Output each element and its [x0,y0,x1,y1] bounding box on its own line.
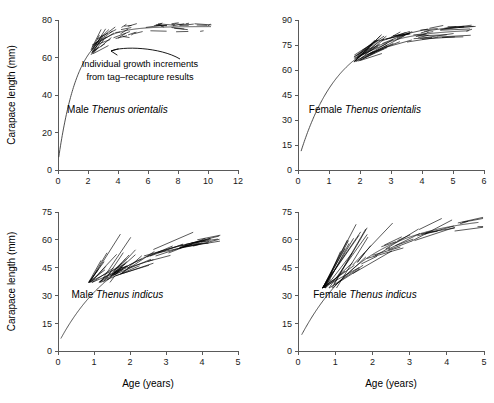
x-tick-label: 0 [295,176,300,186]
x-tick-label: 10 [203,176,213,186]
y-tick-label: 15 [282,140,292,150]
panel-species-label: Male Thenus indicus [72,289,164,300]
panel-species-label: Male Thenus orientalis [67,104,168,115]
increment-segment [424,27,456,32]
increment-segment [455,227,483,231]
x-tick-label: 2 [127,357,132,367]
x-tick-label: 2 [357,176,362,186]
growth-increments-top-right [354,25,476,62]
figure-container: 020406080024681012Carapace length (mm)Ma… [0,0,494,403]
y-tick-label: 45 [282,90,292,100]
x-tick-label: 1 [91,357,96,367]
y-axis-title: Carapace length (mm) [6,232,17,331]
increment-segment [322,249,345,288]
y-tick-label: 75 [42,207,52,217]
y-tick-label: 0 [287,165,292,175]
x-tick-label: 4 [419,176,424,186]
x-tick-label: 1 [333,357,338,367]
panel-bottom-left: 01530456075012345Carapace length (mm)Age… [0,200,248,403]
panel-species-label: Female Thenus orientalis [309,104,421,115]
x-tick-label: 0 [55,357,60,367]
increment-segment [386,229,419,249]
species-label-italic: Thenus orientalis [92,104,168,115]
y-tick-label: 80 [42,15,52,25]
increment-segment [419,218,442,229]
species-label-plain: Male [67,104,91,115]
increment-segment [103,27,116,36]
x-tick-label: 5 [235,357,240,367]
y-tick-label: 15 [282,319,292,329]
panel-top-right: 01530456075900123456Female Thenus orient… [248,0,494,200]
y-tick-label: 0 [47,165,52,175]
axes: 01530456075012345 [282,207,487,367]
panel-top-left: 020406080024681012Carapace length (mm)Ma… [0,0,248,200]
y-tick-label: 45 [42,263,52,273]
x-tick-label: 0 [295,357,300,367]
x-tick-label: 2 [370,357,375,367]
x-tick-label: 5 [450,176,455,186]
x-tick-label: 6 [145,176,150,186]
increment-segment [462,218,483,222]
y-tick-label: 90 [282,15,292,25]
increment-segment [124,26,131,27]
increment-segment [466,29,472,31]
y-tick-label: 15 [42,319,52,329]
increment-segment [458,217,483,223]
y-tick-label: 30 [282,291,292,301]
y-tick-label: 60 [282,235,292,245]
x-tick-label: 4 [444,357,449,367]
y-tick-label: 75 [282,40,292,50]
increment-segment [427,32,434,33]
annotation-line-1: Individual growth increments [82,59,199,69]
annotation-arrow-curve [111,48,180,59]
species-label-plain: Male [72,289,96,300]
annotation-arrow-head [111,49,119,55]
panel-bottom-right: 01530456075012345Age (years)Female Thenu… [248,200,494,403]
y-tick-label: 0 [47,346,52,356]
y-tick-label: 60 [42,53,52,63]
x-axis-title: Age (years) [122,378,174,389]
x-tick-label: 4 [199,357,204,367]
x-axis-title: Age (years) [365,378,417,389]
increment-segment [429,25,443,28]
y-tick-label: 30 [42,291,52,301]
species-label-italic: Thenus indicus [96,289,163,300]
y-tick-label: 75 [282,207,292,217]
x-tick-label: 3 [407,357,412,367]
y-tick-label: 20 [42,128,52,138]
x-tick-label: 3 [388,176,393,186]
x-tick-label: 8 [175,176,180,186]
axes: 01530456075012345 [42,207,241,367]
increment-segment [150,244,183,256]
increment-segment [367,248,404,259]
x-tick-label: 2 [85,176,90,186]
axes: 01530456075900123456 [282,15,487,186]
y-tick-label: 60 [282,65,292,75]
y-axis-title: Carapace length (mm) [6,45,17,144]
y-tick-label: 30 [282,115,292,125]
growth-increments-bottom-right [322,217,483,288]
species-label-plain: Female [309,104,345,115]
increment-segment [186,23,189,24]
panel-species-label: Female Thenus indicus [313,289,416,300]
x-tick-label: 4 [115,176,120,186]
annotation-line-2: from tag–recapture results [86,72,194,82]
x-tick-label: 6 [481,176,486,186]
x-tick-label: 5 [481,357,486,367]
increment-segment [425,226,454,234]
increment-segment [389,241,412,250]
species-label-italic: Thenus orientalis [345,104,421,115]
increment-segment [123,36,130,37]
tag-recapture-annotation: Individual growth incrementsfrom tag–rec… [82,48,199,82]
y-tick-label: 0 [287,346,292,356]
increment-segment [324,238,353,288]
x-tick-label: 12 [233,176,243,186]
y-tick-label: 45 [282,263,292,273]
growth-increments-bottom-left [89,232,221,282]
y-tick-label: 60 [42,235,52,245]
increment-segment [355,35,382,62]
axes: 020406080024681012 [42,15,243,186]
species-label-plain: Female [313,289,349,300]
y-tick-label: 40 [42,90,52,100]
x-tick-label: 1 [326,176,331,186]
